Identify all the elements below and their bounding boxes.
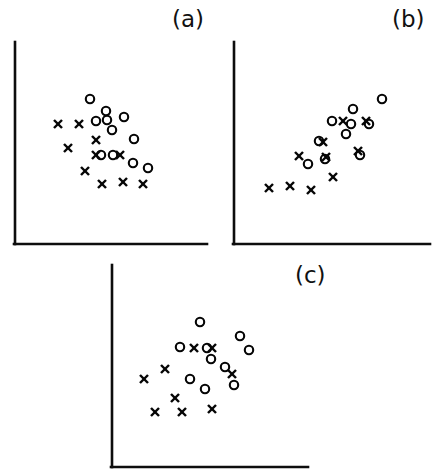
data-point-circle	[176, 343, 184, 351]
scatterplot-figure: (a)	[0, 0, 443, 476]
data-point-cross	[140, 375, 148, 383]
data-point-cross	[151, 408, 159, 416]
data-point-circle	[196, 318, 204, 326]
panel-a: (a)	[0, 0, 222, 250]
panel-b-circles	[304, 95, 386, 168]
data-point-circle	[144, 164, 152, 172]
data-point-circle	[130, 135, 138, 143]
data-point-circle	[103, 116, 111, 124]
data-point-cross	[190, 344, 198, 352]
panel-b-crosses	[265, 117, 370, 194]
data-point-cross	[92, 151, 100, 159]
panel-b: (b)	[222, 0, 443, 250]
data-point-cross	[339, 117, 347, 125]
data-point-cross	[208, 344, 216, 352]
data-point-cross	[119, 178, 127, 186]
data-point-cross	[161, 365, 169, 373]
data-point-cross	[139, 180, 147, 188]
data-point-circle	[186, 375, 194, 383]
data-point-circle	[245, 346, 253, 354]
data-point-circle	[328, 117, 336, 125]
panel-a-circles	[86, 95, 152, 172]
data-point-circle	[92, 117, 100, 125]
data-point-cross	[171, 394, 179, 402]
data-point-cross	[228, 370, 236, 378]
data-point-cross	[75, 120, 83, 128]
data-point-cross	[307, 186, 315, 194]
data-point-circle	[378, 95, 386, 103]
data-point-circle	[347, 120, 355, 128]
data-point-circle	[201, 385, 209, 393]
data-point-circle	[236, 332, 244, 340]
panel-a-plot	[0, 0, 222, 250]
panel-c-crosses	[140, 344, 236, 416]
panel-c: (c)	[100, 250, 343, 476]
data-point-cross	[362, 117, 370, 125]
data-point-cross	[81, 167, 89, 175]
panel-c-label: (c)	[295, 264, 326, 287]
data-point-circle	[108, 126, 116, 134]
data-point-circle	[221, 363, 229, 371]
data-point-circle	[304, 160, 312, 168]
panel-a-crosses	[54, 120, 147, 188]
data-point-cross	[286, 182, 294, 190]
data-point-circle	[120, 113, 128, 121]
data-point-cross	[64, 144, 72, 152]
data-point-circle	[342, 130, 350, 138]
data-point-circle	[230, 381, 238, 389]
panel-a-label: (a)	[172, 8, 204, 31]
data-point-cross	[295, 152, 303, 160]
data-point-cross	[54, 120, 62, 128]
data-point-circle	[86, 95, 94, 103]
panel-b-plot	[222, 0, 443, 250]
data-point-circle	[207, 355, 215, 363]
data-point-cross	[178, 408, 186, 416]
data-point-cross	[92, 136, 100, 144]
data-point-cross	[98, 180, 106, 188]
data-point-circle	[129, 159, 137, 167]
data-point-cross	[329, 173, 337, 181]
panel-c-circles	[176, 318, 253, 393]
data-point-circle	[349, 105, 357, 113]
data-point-circle	[102, 107, 110, 115]
panel-b-label: (b)	[392, 8, 425, 31]
data-point-cross	[265, 184, 273, 192]
data-point-cross	[208, 405, 216, 413]
